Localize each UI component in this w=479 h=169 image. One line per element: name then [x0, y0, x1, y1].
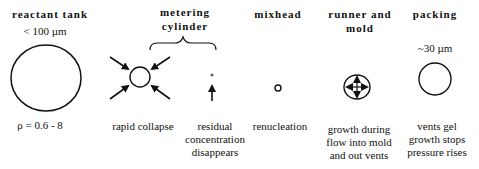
residual-speck-icon: [210, 73, 213, 76]
header-line: cylinder: [150, 19, 220, 33]
caption-line: vents gel: [404, 120, 470, 133]
header-mixhead: mixhead: [250, 7, 306, 21]
header-packing: packing: [405, 7, 465, 21]
inward-arrows-icon: [110, 57, 170, 99]
caption-packing: vents gel growth stops pressure rises: [404, 120, 470, 159]
caption-renucleation: renucleation: [250, 120, 310, 133]
header-line: runner and: [325, 7, 395, 21]
caption-line: rapid collapse: [108, 120, 178, 133]
header-line: mold: [325, 21, 395, 35]
caption-residual: residual concentration disappears: [185, 120, 245, 159]
caption-rapid-collapse: rapid collapse: [108, 120, 178, 133]
packing-bubble-icon: [419, 63, 451, 95]
caption-line: pressure rises: [404, 146, 470, 159]
caption-line: concentration: [185, 133, 245, 146]
caption-runner-mold: growth during flow into mold and out ven…: [323, 123, 395, 162]
caption-line: disappears: [185, 146, 245, 159]
density-label: ρ = 0.6 - 8: [10, 119, 70, 131]
header-reactant-tank: reactant tank: [10, 7, 90, 21]
caption-line: renucleation: [250, 120, 310, 133]
large-bubble-icon: [11, 45, 81, 111]
caption-line: growth during: [323, 123, 395, 136]
header-metering-cylinder: metering cylinder: [150, 5, 220, 33]
brace-icon: [150, 37, 216, 50]
caption-line: flow into mold: [323, 136, 395, 149]
size-label-reactant: < 100 µm: [15, 25, 75, 37]
size-label-packing: ~30 µm: [405, 42, 465, 54]
small-bubble-icon: [275, 85, 281, 91]
header-runner-and-mold: runner and mold: [325, 7, 395, 35]
caption-line: residual: [185, 120, 245, 133]
caption-line: growth stops: [404, 133, 470, 146]
header-line: metering: [150, 5, 220, 19]
collapsing-bubble-icon: [130, 67, 150, 87]
outward-arrows-icon: [347, 77, 367, 97]
caption-line: and out vents: [323, 149, 395, 162]
